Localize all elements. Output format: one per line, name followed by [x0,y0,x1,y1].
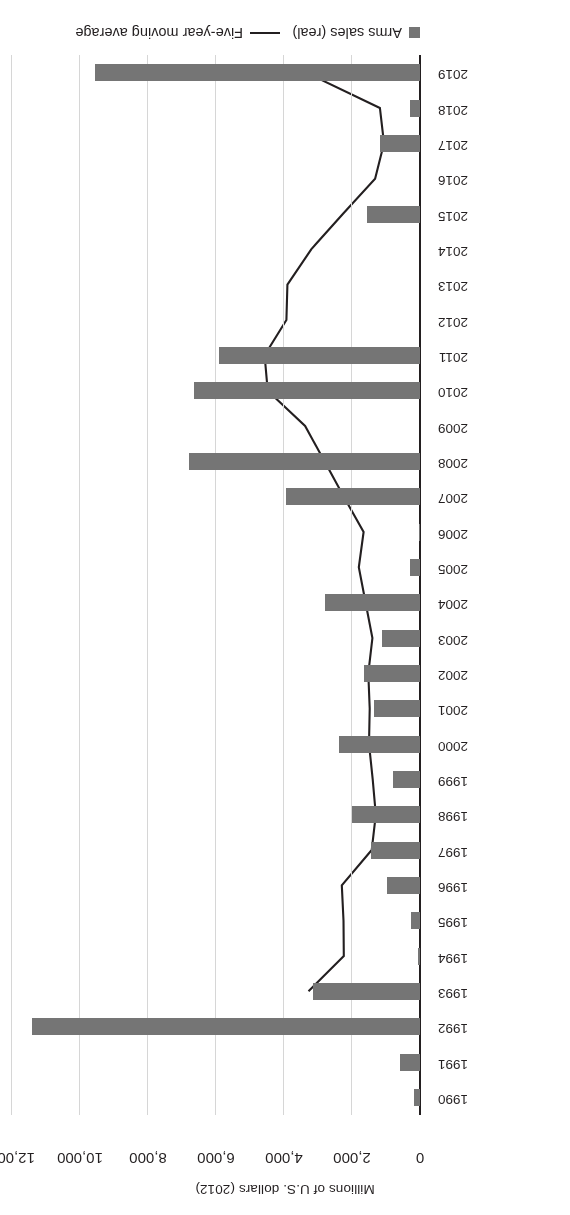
bar-row[interactable]: 1998 [0,797,570,832]
category-label-2012: 2012 [438,315,468,330]
bar-1997[interactable] [371,842,420,859]
category-label-2013: 2013 [438,279,468,294]
legend-line-swatch-icon [250,32,280,34]
bar-2004[interactable] [325,594,420,611]
bar-row[interactable]: 2011 [0,338,570,373]
value-axis-tick-10000: 10,000 [57,1150,103,1167]
bar-2005[interactable] [410,559,420,576]
category-label-1994: 1994 [438,951,468,966]
bar-row[interactable]: 1997 [0,832,570,867]
bar-2001[interactable] [374,700,420,717]
bar-row[interactable]: 2003 [0,620,570,655]
bar-row[interactable]: 1990 [0,1080,570,1115]
bar-2018[interactable] [410,100,420,117]
bar-row[interactable]: 2017 [0,126,570,161]
category-label-1990: 1990 [438,1092,468,1107]
bar-row[interactable]: 1996 [0,868,570,903]
category-label-2014: 2014 [438,244,468,259]
bar-row[interactable]: 2015 [0,196,570,231]
category-label-1997: 1997 [438,845,468,860]
category-label-1992: 1992 [438,1021,468,1036]
bar-2006[interactable] [419,524,420,541]
value-axis-tick-6000: 6,000 [197,1150,235,1167]
category-label-2009: 2009 [438,421,468,436]
category-label-2018: 2018 [438,103,468,118]
legend-label: Arms sales (real) [292,25,402,41]
bar-2003[interactable] [382,630,420,647]
category-label-2019: 2019 [438,67,468,82]
bar-row[interactable]: 2014 [0,232,570,267]
bar-row[interactable]: 2016 [0,161,570,196]
value-axis-tick-2000: 2,000 [333,1150,371,1167]
bar-1993[interactable] [313,983,420,1000]
value-axis-tick-12000: 12,000 [0,1150,35,1167]
category-label-2016: 2016 [438,173,468,188]
bar-row[interactable]: 2018 [0,90,570,125]
bar-1999[interactable] [393,771,420,788]
legend-item-moving-average[interactable]: Five-year moving average [75,25,280,41]
bar-1992[interactable] [32,1018,420,1035]
category-label-2011: 2011 [439,350,468,365]
category-label-2010: 2010 [438,385,468,400]
bar-row[interactable]: 1992 [0,1009,570,1044]
bar-2019[interactable] [95,64,420,81]
bar-row[interactable]: 2008 [0,444,570,479]
bar-2011[interactable] [219,347,420,364]
bar-chart-figure: Millions of U.S. dollars (2012) 02,0004,… [0,0,570,1215]
bar-row[interactable]: 2019 [0,55,570,90]
category-label-2003: 2003 [438,633,468,648]
bar-row[interactable]: 2002 [0,656,570,691]
bar-row[interactable]: 2012 [0,302,570,337]
bar-row[interactable]: 2005 [0,550,570,585]
bar-1994[interactable] [418,948,420,965]
category-label-2015: 2015 [438,209,468,224]
bar-1995[interactable] [411,912,420,929]
bar-2015[interactable] [367,206,420,223]
category-label-2017: 2017 [438,138,468,153]
category-label-2005: 2005 [438,562,468,577]
bar-1991[interactable] [400,1054,420,1071]
bar-row[interactable]: 1994 [0,938,570,973]
rotated-figure-wrapper: Millions of U.S. dollars (2012) 02,0004,… [0,0,570,1215]
value-axis-tick-4000: 4,000 [265,1150,303,1167]
bar-2007[interactable] [286,488,420,505]
bar-row[interactable]: 1993 [0,974,570,1009]
bar-row[interactable]: 1995 [0,903,570,938]
bar-1990[interactable] [414,1089,420,1106]
category-label-1996: 1996 [438,880,468,895]
value-axis-tick-0: 0 [416,1150,424,1167]
bar-row[interactable]: 2001 [0,691,570,726]
bar-row[interactable]: 2007 [0,479,570,514]
category-label-2002: 2002 [438,668,468,683]
legend-item-arms-sales[interactable]: Arms sales (real) [292,25,420,41]
bar-row[interactable]: 1999 [0,762,570,797]
bar-row[interactable]: 2006 [0,514,570,549]
bar-row[interactable]: 2004 [0,585,570,620]
legend-label: Five-year moving average [75,25,243,41]
bar-row[interactable]: 2009 [0,408,570,443]
bar-2002[interactable] [364,665,420,682]
category-label-1995: 1995 [438,915,468,930]
category-label-2004: 2004 [438,597,468,612]
category-label-2008: 2008 [438,456,468,471]
category-label-1993: 1993 [438,986,468,1001]
category-label-1998: 1998 [438,809,468,824]
category-label-1991: 1991 [438,1057,468,1072]
bar-2017[interactable] [380,135,420,152]
bar-2008[interactable] [189,453,420,470]
bar-2000[interactable] [339,736,420,753]
category-label-2001: 2001 [438,703,468,718]
value-axis-title: Millions of U.S. dollars (2012) [0,1182,570,1197]
bar-1998[interactable] [352,806,420,823]
bar-row[interactable]: 2000 [0,726,570,761]
bar-2010[interactable] [194,382,420,399]
bar-row[interactable]: 1991 [0,1044,570,1079]
bar-1996[interactable] [387,877,420,894]
chart-legend: Arms sales (real)Five-year moving averag… [0,11,570,41]
category-label-2006: 2006 [438,527,468,542]
category-label-1999: 1999 [438,774,468,789]
plot-area: 1990199119921993199419951996199719981999… [0,55,570,1115]
legend-bar-swatch-icon [409,28,420,39]
bar-row[interactable]: 2010 [0,373,570,408]
bar-row[interactable]: 2013 [0,267,570,302]
